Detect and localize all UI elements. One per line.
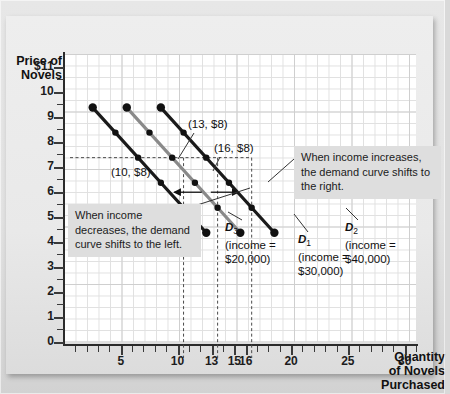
- data-point-d3-6: [135, 154, 141, 160]
- data-point-d1-13: [214, 205, 220, 211]
- leader-callout-increase: [268, 159, 294, 182]
- curve-label-d1-text: D1(income =$30,000): [298, 233, 349, 277]
- data-point-d1-7: [146, 129, 152, 135]
- data-point-d2-16: [248, 205, 254, 211]
- data-point-d3-8: [158, 179, 164, 185]
- point-label-10: (10, $8): [111, 166, 151, 178]
- data-point-d3-4: [112, 129, 118, 135]
- curve-label-d2: D2 (income =$40,000): [345, 220, 396, 266]
- data-point-d1-11: [192, 179, 198, 185]
- data-point-d2-14: [226, 179, 232, 185]
- curve-label-d3-text: D3(income =$20,000): [225, 221, 276, 265]
- leader-label-d2: [346, 208, 358, 220]
- data-point-d3-2: [89, 103, 97, 111]
- data-point-d1-9: [169, 154, 175, 160]
- leader-label-d1: [294, 214, 308, 232]
- data-point-d2-8: [157, 103, 165, 111]
- curve-label-d1: D1(income =$30,000): [298, 232, 349, 278]
- callout-income-decrease: When income decreases, the demand curve …: [68, 204, 201, 257]
- data-point-d2-12: [203, 154, 209, 160]
- data-point-d1-5: [123, 103, 131, 111]
- point-label-16: (16, $8): [214, 142, 254, 154]
- point-label-13: (13, $8): [188, 118, 228, 130]
- leader-label-d3: [228, 212, 242, 220]
- data-point-d2-10: [180, 129, 186, 135]
- chart-board: Price of Novels Quantity of Novels Purch…: [6, 16, 433, 374]
- data-point-d3-12: [202, 229, 210, 237]
- curve-label-d3: D3(income =$20,000): [225, 220, 276, 266]
- callout-income-increase: When income increases, the demand curve …: [294, 146, 441, 199]
- curve-label-d2-text: D2 (income =$40,000): [345, 221, 396, 265]
